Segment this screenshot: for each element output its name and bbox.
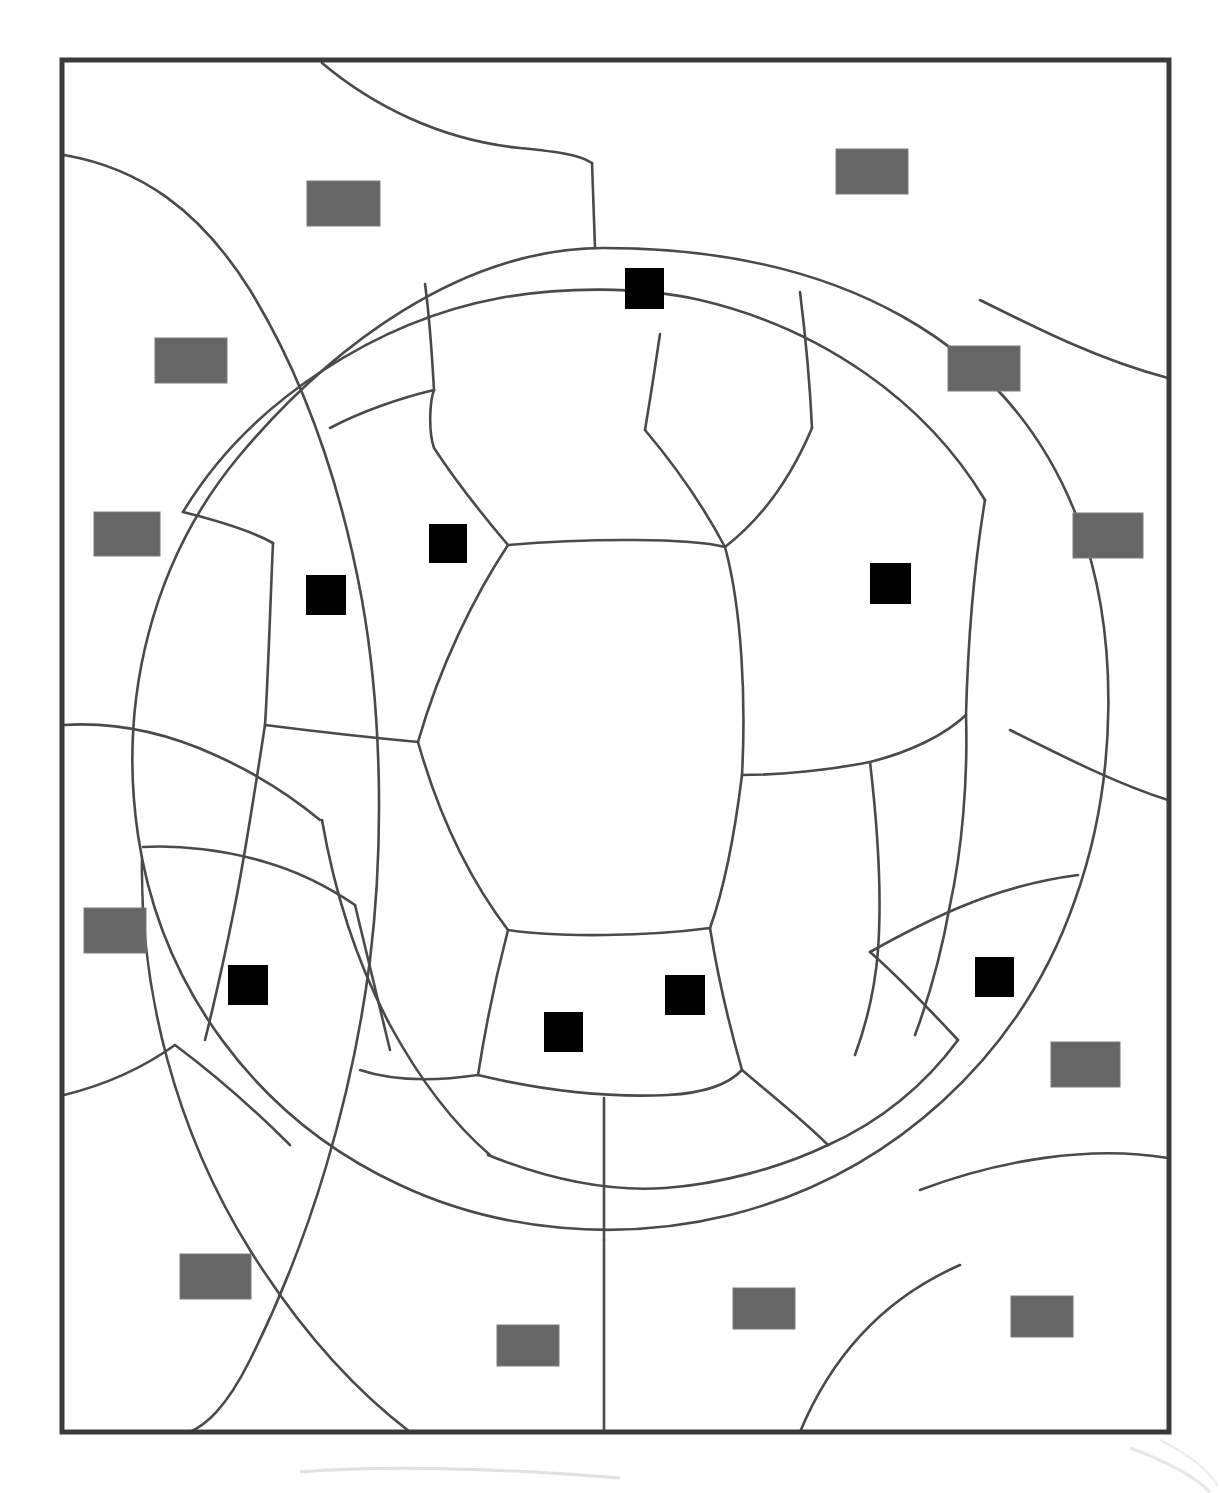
black-marker-2 — [429, 524, 467, 563]
black-marker-4 — [306, 575, 346, 615]
gray-marker-8 — [1051, 1042, 1120, 1087]
gray-marker-3 — [155, 338, 227, 383]
black-marker-6 — [975, 957, 1014, 997]
gray-marker-9 — [180, 1254, 251, 1299]
gray-marker-5 — [94, 512, 160, 556]
gray-marker-6 — [1073, 513, 1143, 558]
gray-marker-4 — [948, 346, 1020, 391]
gray-marker-7 — [84, 908, 146, 953]
gray-marker-1 — [307, 181, 380, 226]
page-root: Soccer Ball Coloring Outline — [0, 0, 1220, 1493]
black-marker-1 — [625, 268, 664, 309]
gray-marker-2 — [836, 149, 908, 194]
gray-marker-11 — [1011, 1296, 1073, 1337]
black-marker-7 — [665, 975, 705, 1015]
black-marker-3 — [870, 563, 911, 604]
soccer-ball-artboard — [0, 0, 1220, 1493]
gray-marker-12 — [497, 1325, 559, 1366]
gray-marker-10 — [733, 1288, 795, 1329]
black-marker-8 — [544, 1012, 583, 1052]
black-marker-5 — [228, 965, 268, 1005]
